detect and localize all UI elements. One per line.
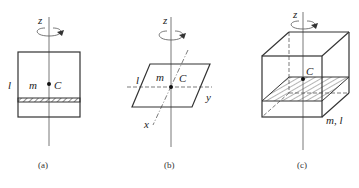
hatched-section: [262, 77, 349, 101]
center-label: C: [306, 65, 314, 77]
panel-c: z C m, l (c): [262, 8, 349, 170]
z-axis-label: z: [292, 8, 298, 20]
length-label: l: [136, 74, 139, 86]
mass-length-label: m, l: [326, 114, 343, 126]
hatched-strip: [18, 98, 80, 102]
rotation-arrow-icon: [159, 31, 186, 40]
y-axis-label: y: [205, 91, 211, 103]
center-of-mass-dot: [301, 77, 305, 81]
x-axis-label: x: [143, 118, 149, 130]
caption-c: (c): [297, 160, 307, 170]
z-axis-label: z: [162, 14, 168, 26]
figure-canvas: z l m C (a) z l m C y x (b): [0, 0, 359, 188]
length-label: l: [8, 79, 11, 91]
center-of-mass-dot: [47, 82, 51, 86]
mass-label: m: [156, 71, 164, 83]
panel-b: z l m C y x (b): [127, 14, 212, 170]
z-axis-label: z: [37, 14, 43, 26]
caption-a: (a): [38, 160, 48, 170]
mass-label: m: [29, 79, 37, 91]
center-label: C: [54, 79, 62, 91]
panel-a: z l m C (a): [8, 14, 80, 170]
caption-b: (b): [164, 160, 175, 170]
center-of-mass-dot: [169, 85, 173, 89]
rotation-arrow-icon: [37, 28, 64, 36]
rotation-arrow-icon: [291, 21, 318, 29]
center-label: C: [179, 72, 187, 84]
